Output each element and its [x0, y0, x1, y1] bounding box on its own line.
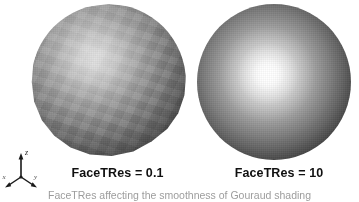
axis-label-y: y: [33, 173, 38, 181]
axis-label-x: x: [2, 173, 7, 181]
shading-comparison-figure: z x y FaceTRes = 0.1 FaceTRes = 10 FaceT…: [0, 0, 359, 202]
sphere-faceted-grain-texture: [31, 4, 186, 160]
figure-caption: FaceTRes affecting the smoothness of Gou…: [0, 189, 359, 202]
sphere-smooth-grain-texture: [197, 4, 351, 160]
sphere-smooth-10: [197, 4, 351, 160]
sphere-faceted-0-1: [31, 4, 186, 160]
axis-origin-dot: [19, 175, 22, 178]
axis-label-z: z: [24, 148, 29, 157]
sphere-label-smooth: FaceTRes = 10: [218, 166, 340, 180]
sphere-label-faceted: FaceTRes = 0.1: [55, 166, 180, 180]
coordinate-axis-triad-icon: z x y: [2, 146, 42, 190]
